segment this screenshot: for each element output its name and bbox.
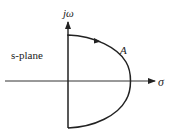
sigma-label: σ [158,75,165,89]
direction-arrow-icon [94,38,101,44]
contour-label-a: A [119,44,127,56]
s-plane-label: s-plane [11,49,43,61]
s-plane-diagram: jω A s-plane σ [0,0,169,138]
jomega-label: jω [61,7,74,19]
